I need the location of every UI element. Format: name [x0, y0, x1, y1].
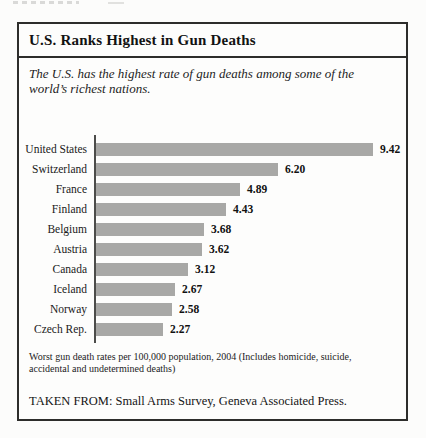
country-label: France	[19, 183, 94, 195]
country-label: Belgium	[19, 223, 94, 235]
bar-zone: 3.68	[94, 223, 406, 236]
bar-row: Belgium 3.68	[19, 219, 406, 239]
bar-zone: 3.62	[94, 243, 406, 256]
bar-row: Canada 3.12	[19, 259, 406, 279]
cropped-text-fragment	[13, 1, 79, 4]
bar-chart-rows: United States 9.42 Switzerland 6.20 Fran…	[19, 139, 406, 339]
bar	[96, 143, 373, 156]
bar-row: Czech Rep. 2.27	[19, 319, 406, 339]
country-label: Austria	[19, 243, 94, 255]
bar	[96, 263, 188, 276]
value-label: 6.20	[285, 163, 305, 175]
value-label: 2.67	[182, 283, 202, 295]
cropped-text-remnant	[13, 0, 133, 5]
value-label: 3.12	[195, 263, 215, 275]
bar	[96, 243, 202, 256]
bar-zone: 6.20	[94, 163, 406, 176]
bar-row: Switzerland 6.20	[19, 159, 406, 179]
bar-zone: 3.12	[94, 263, 406, 276]
value-label: 2.27	[170, 323, 190, 335]
bar	[96, 283, 175, 296]
value-label: 4.43	[233, 203, 253, 215]
cropped-text-fragment	[108, 2, 124, 4]
y-axis-line	[94, 135, 96, 343]
country-label: Czech Rep.	[19, 323, 94, 335]
bar	[96, 183, 240, 196]
country-label: Switzerland	[19, 163, 94, 175]
value-label: 9.42	[380, 143, 400, 155]
country-label: United States	[19, 143, 94, 155]
country-label: Finland	[19, 203, 94, 215]
bar-row: United States 9.42	[19, 139, 406, 159]
bar-zone: 4.89	[94, 183, 406, 196]
bar	[96, 323, 163, 336]
bar-row: Norway 2.58	[19, 299, 406, 319]
bar-zone: 4.43	[94, 203, 406, 216]
title-divider	[19, 56, 406, 58]
value-label: 4.89	[247, 183, 267, 195]
bar-row: France 4.89	[19, 179, 406, 199]
bar	[96, 223, 204, 236]
country-label: Norway	[19, 303, 94, 315]
bar-row: Finland 4.43	[19, 199, 406, 219]
bar	[96, 303, 172, 316]
chart-footnote: Worst gun death rates per 100,000 popula…	[29, 351, 374, 375]
value-label: 3.62	[209, 243, 229, 255]
bar	[96, 203, 226, 216]
country-label: Iceland	[19, 283, 94, 295]
bar-chart: United States 9.42 Switzerland 6.20 Fran…	[19, 135, 406, 343]
panel-title: U.S. Ranks Highest in Gun Deaths	[29, 32, 396, 49]
value-label: 3.68	[211, 223, 231, 235]
bar-zone: 2.67	[94, 283, 406, 296]
bar-row: Iceland 2.67	[19, 279, 406, 299]
bar-zone: 9.42	[94, 143, 406, 156]
source-line: TAKEN FROM: Small Arms Survey, Geneva As…	[29, 394, 392, 409]
bar-zone: 2.27	[94, 323, 406, 336]
panel-subtitle: The U.S. has the highest rate of gun dea…	[29, 66, 392, 96]
country-label: Canada	[19, 263, 94, 275]
value-label: 2.58	[179, 303, 199, 315]
bar	[96, 163, 278, 176]
chart-panel: U.S. Ranks Highest in Gun Deaths The U.S…	[17, 22, 408, 421]
bar-zone: 2.58	[94, 303, 406, 316]
bar-row: Austria 3.62	[19, 239, 406, 259]
